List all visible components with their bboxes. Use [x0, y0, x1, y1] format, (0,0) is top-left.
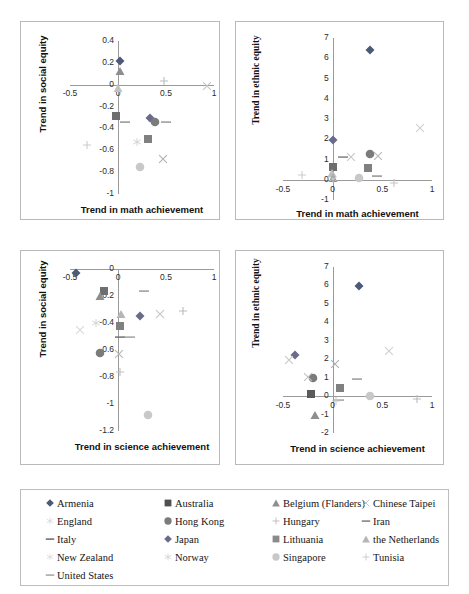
- legend-label: Lithuania: [283, 534, 323, 545]
- y-tick-label: 0: [88, 264, 114, 273]
- legend-item[interactable]: Tunisia: [359, 548, 404, 566]
- data-point-plus: [115, 367, 124, 376]
- legend-item[interactable]: Hong Kong: [161, 512, 224, 530]
- legend-item[interactable]: Belgium (Flanders): [269, 494, 365, 512]
- y-axis-title: Trend in social equity: [37, 35, 48, 132]
- y-tick-label: 2: [303, 354, 329, 363]
- data-point-dash: [115, 335, 125, 339]
- legend-item[interactable]: Australia: [161, 494, 214, 512]
- legend-marker-icon: [359, 497, 373, 509]
- plot-area-science-social: -0.500.51-1.2-1-0.8-0.6-0.4-0.20Trend in…: [21, 251, 219, 464]
- y-axis-title: Trend in ethnic equity: [251, 35, 261, 125]
- data-point-diamond: [328, 135, 337, 144]
- legend-item[interactable]: Norway: [161, 548, 209, 566]
- legend-item[interactable]: Armenia: [43, 494, 94, 512]
- data-point-circle: [95, 348, 104, 357]
- chart-panel-math-ethnic: -0.500.51-101234567Trend in math achieve…: [235, 21, 444, 220]
- legend-label: Armenia: [57, 498, 94, 509]
- chart-panel-math-social: -0.500.51-1-0.8-0.6-0.4-0.200.20.4Trend …: [20, 21, 220, 220]
- y-tick-label: -0.8: [88, 372, 114, 381]
- chart-panel-science-social: -0.500.51-1.2-1-0.8-0.6-0.4-0.20Trend in…: [20, 250, 220, 465]
- legend-label: Hong Kong: [175, 516, 224, 527]
- legend-label: Australia: [175, 498, 214, 509]
- legend-marker-icon: [269, 533, 283, 545]
- x-axis-title: Trend in math achievement: [81, 204, 203, 215]
- data-point-plus: [413, 395, 422, 404]
- data-point-diamond: [136, 312, 145, 321]
- data-point-x: [75, 325, 84, 334]
- data-point-x: [114, 350, 123, 359]
- legend-marker-icon: [359, 533, 373, 545]
- legend-marker-icon: [269, 551, 283, 563]
- legend-marker-icon: [359, 515, 373, 527]
- y-tick-label: 5: [303, 299, 329, 308]
- legend-label: Belgium (Flanders): [283, 498, 365, 509]
- plot-area-math-social: -0.500.51-1-0.8-0.6-0.4-0.200.20.4Trend …: [21, 22, 219, 219]
- x-tick-label: 1: [212, 89, 217, 98]
- y-axis-title: Trend in social equity: [37, 260, 48, 357]
- data-point-plus: [331, 397, 340, 406]
- y-tick-label: 6: [303, 53, 329, 62]
- legend-item[interactable]: New Zealand: [43, 548, 113, 566]
- legend-label: Tunisia: [373, 552, 404, 563]
- data-point-dash: [352, 377, 362, 381]
- y-tick-label: 4: [303, 317, 329, 326]
- y-tick-label: -0.8: [88, 167, 114, 176]
- x-tick-label: -0.5: [63, 89, 78, 98]
- legend-marker-icon: [43, 515, 57, 527]
- legend-marker-icon: [43, 551, 57, 563]
- x-tick-label: 0.5: [160, 89, 172, 98]
- data-point-diamond: [355, 282, 364, 291]
- y-tick-label: 3: [303, 114, 329, 123]
- y-tick-label: -1: [303, 195, 329, 204]
- legend-item[interactable]: Lithuania: [269, 530, 323, 548]
- legend-item[interactable]: Japan: [161, 530, 199, 548]
- legend-label: Norway: [175, 552, 209, 563]
- y-tick-label: 0: [88, 80, 114, 89]
- legend-item[interactable]: Iran: [359, 512, 390, 530]
- x-axis-title: Trend in science achievement: [290, 443, 425, 454]
- data-point-square: [307, 390, 315, 398]
- legend-label: Singapore: [283, 552, 326, 563]
- data-point-x: [330, 360, 339, 369]
- x-tick-label: -0.5: [276, 185, 291, 194]
- data-point-star: [133, 137, 142, 146]
- data-point-dash: [139, 289, 149, 293]
- data-point-x: [374, 151, 383, 160]
- legend-label: United States: [57, 570, 113, 581]
- legend-item[interactable]: the Netherlands: [359, 530, 439, 548]
- data-point-square: [364, 164, 372, 172]
- data-point-diamond: [115, 56, 124, 65]
- legend-item[interactable]: England: [43, 512, 92, 530]
- legend-item[interactable]: Chinese Taipei: [359, 494, 435, 512]
- legend-item[interactable]: Hungary: [269, 512, 320, 530]
- data-point-triangle: [310, 411, 319, 419]
- x-tick-label: -0.5: [276, 401, 291, 410]
- y-tick-label: -1.2: [88, 426, 114, 435]
- y-tick-label: -1: [88, 399, 114, 408]
- x-tick-label: 0.5: [376, 401, 388, 410]
- legend-item[interactable]: Italy: [43, 530, 76, 548]
- data-point-triangle: [95, 292, 104, 300]
- y-tick-label: 1: [303, 155, 329, 164]
- data-point-triangle: [115, 67, 124, 75]
- data-point-x: [203, 81, 212, 90]
- data-point-plus: [297, 171, 306, 180]
- legend-item[interactable]: United States: [43, 566, 113, 584]
- data-point-x: [346, 153, 355, 162]
- x-tick-label: 0: [116, 273, 121, 282]
- data-point-x: [159, 155, 168, 164]
- legend-label: Japan: [175, 534, 199, 545]
- y-tick-label: -0.6: [88, 145, 114, 154]
- data-point-dash: [125, 335, 135, 339]
- data-point-x: [156, 309, 165, 318]
- y-tick-label: -2: [303, 428, 329, 437]
- scatter-figure-grid: -0.500.51-1-0.8-0.6-0.4-0.200.20.4Trend …: [0, 0, 469, 594]
- data-point-x: [284, 356, 293, 365]
- legend-label: England: [57, 516, 92, 527]
- y-tick-label: 0.4: [88, 36, 114, 45]
- data-point-dash: [161, 120, 171, 124]
- legend-item[interactable]: Singapore: [269, 548, 326, 566]
- data-point-circle: [136, 162, 145, 171]
- x-axis-title: Trend in math achievement: [296, 208, 418, 219]
